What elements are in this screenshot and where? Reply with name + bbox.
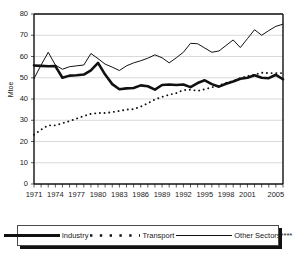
- legend-label-transport: Transport: [141, 231, 175, 240]
- y-tick-label: 70: [8, 30, 28, 39]
- series-line-2: [34, 73, 283, 135]
- y-tick-label: 50: [8, 73, 28, 82]
- y-tick-label: 30: [8, 115, 28, 124]
- legend-item-transport: Transport: [89, 231, 175, 240]
- legend-item-industry: Industry: [3, 231, 90, 240]
- legend-label-industry: Industry: [61, 231, 90, 240]
- legend-item-other-sectors: Other Sectors****: [175, 231, 293, 240]
- dotted-line-swatch: [89, 231, 141, 240]
- y-tick-label: 0: [8, 179, 28, 188]
- plot-area: Mtoe 01020304050607080 19711974197719801…: [0, 0, 296, 200]
- chart-legend: Industry Transport Other Sectors****: [17, 225, 279, 246]
- line-chart-figure: Mtoe 01020304050607080 19711974197719801…: [0, 0, 296, 261]
- y-tick-label: 40: [8, 94, 28, 103]
- x-tick-label: 2001: [234, 190, 260, 199]
- thick-solid-line-swatch: [3, 231, 61, 240]
- chart-canvas: [0, 0, 296, 200]
- y-tick-label: 60: [8, 52, 28, 61]
- y-tick-label: 80: [8, 9, 28, 18]
- data-series-layer: [34, 24, 283, 135]
- y-tick-label: 10: [8, 158, 28, 167]
- legend-label-other-sectors: Other Sectors****: [233, 231, 293, 240]
- thin-solid-line-swatch: [175, 231, 233, 240]
- x-tick-label: 2005: [263, 190, 289, 199]
- y-tick-label: 20: [8, 137, 28, 146]
- series-line-3: [34, 24, 283, 78]
